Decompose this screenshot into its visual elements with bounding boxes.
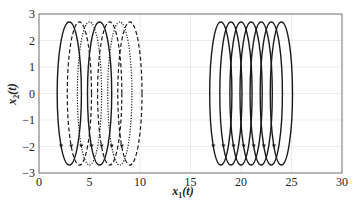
y-tick-label: 3 [29, 7, 35, 21]
x-tick-label: 20 [235, 175, 247, 189]
y-tick-label: 2 [29, 34, 35, 48]
y-tick-label: −1 [22, 113, 35, 127]
y-tick-label: −3 [22, 166, 35, 180]
x-tick-label: 10 [134, 175, 146, 189]
y-axis-label: x2(t) [5, 83, 21, 105]
x-tick-label: 30 [336, 175, 348, 189]
y-tick-label: −2 [22, 140, 35, 154]
y-tick-label: 1 [29, 60, 35, 74]
y-tick-labels: 3210−1−2−3 [22, 7, 35, 180]
phase-portrait-chart: 051015202530 3210−1−2−3 x1(t) x2(t) [0, 0, 359, 205]
x-axis-label: x1(t) [171, 184, 193, 200]
x-tick-label: 25 [286, 175, 298, 189]
y-tick-label: 0 [29, 87, 35, 101]
grid-lines [39, 14, 342, 173]
x-tick-label: 0 [36, 175, 42, 189]
x-tick-label: 5 [87, 175, 93, 189]
